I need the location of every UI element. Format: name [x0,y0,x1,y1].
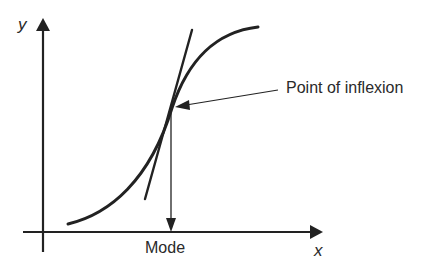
y-axis [36,18,50,252]
inflexion-arrowhead-icon [175,100,190,110]
inflexion-pointer [175,90,278,110]
mode-arrowhead-icon [166,218,176,232]
diagram-graphic [0,0,443,270]
mode-label: Mode [145,240,185,256]
y-axis-arrowhead-icon [36,18,50,31]
x-axis-arrowhead-icon [310,225,323,239]
x-axis-label: x [314,242,323,259]
x-axis [23,225,323,239]
mode-arrow [166,108,176,232]
inflexion-label: Point of inflexion [286,80,403,96]
s-shaped-curve [68,27,258,224]
y-axis-label: y [18,16,27,33]
diagram-canvas: y x Point of inflexion Mode [0,0,443,270]
tangent-line [145,30,192,199]
